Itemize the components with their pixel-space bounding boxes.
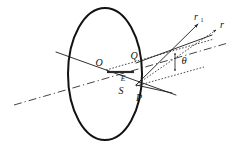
ray-geometry-diagram: O Q E S P r 1 r θ	[0, 0, 231, 151]
label-r1: r	[194, 11, 198, 22]
figure-root: O Q E S P r 1 r θ	[0, 0, 231, 151]
solid-chord-line	[56, 52, 176, 95]
label-r1-subscript: 1	[201, 17, 204, 23]
label-Q: Q	[130, 50, 138, 61]
dotted-guide-lower	[136, 67, 204, 86]
label-S: S	[119, 85, 124, 96]
label-theta: θ	[181, 55, 186, 66]
label-E: E	[120, 74, 126, 83]
label-O: O	[95, 57, 102, 68]
label-P: P	[135, 92, 142, 103]
solid-ray-r1	[136, 24, 198, 85]
dotted-ray-r	[136, 30, 216, 85]
solid-ray-q-leg	[136, 35, 212, 63]
label-r: r	[220, 19, 224, 30]
ellipse-outline	[68, 8, 142, 140]
